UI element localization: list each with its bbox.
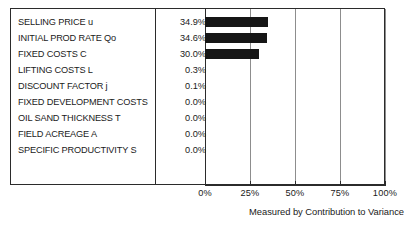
x-axis-tick-50 bbox=[295, 181, 296, 186]
row-value: 0.1% bbox=[162, 78, 206, 94]
chart-row: SPECIFIC PRODUCTIVITY S0.0% bbox=[10, 142, 385, 158]
row-value: 0.3% bbox=[162, 62, 206, 78]
row-label: OIL SAND THICKNESS T bbox=[18, 110, 158, 126]
row-label: SELLING PRICE u bbox=[18, 14, 158, 30]
row-value: 34.6% bbox=[162, 30, 206, 46]
bar bbox=[205, 49, 259, 59]
row-value: 30.0% bbox=[162, 46, 206, 62]
chart-row: FIXED DEVELOPMENT COSTS0.0% bbox=[10, 94, 385, 110]
x-axis-tick-label: 50% bbox=[270, 188, 320, 198]
chart-rows: SELLING PRICE u34.9%INITIAL PROD RATE Qo… bbox=[10, 8, 385, 185]
chart-row: FIXED COSTS C30.0% bbox=[10, 46, 385, 62]
chart-row: OIL SAND THICKNESS T0.0% bbox=[10, 110, 385, 126]
row-label: INITIAL PROD RATE Qo bbox=[18, 30, 158, 46]
row-label: FIXED COSTS C bbox=[18, 46, 158, 62]
row-label: FIXED DEVELOPMENT COSTS bbox=[18, 94, 158, 110]
row-value: 0.0% bbox=[162, 94, 206, 110]
x-axis-tick-0 bbox=[205, 181, 206, 186]
bar bbox=[205, 33, 267, 43]
x-axis-tick-label: 0% bbox=[180, 188, 230, 198]
row-value: 34.9% bbox=[162, 14, 206, 30]
row-value: 0.0% bbox=[162, 142, 206, 158]
axis-caption: Measured by Contribution to Variance bbox=[0, 206, 404, 217]
x-axis-tick-label: 25% bbox=[225, 188, 275, 198]
x-axis-tick-75 bbox=[340, 181, 341, 186]
x-axis-tick-label: 100% bbox=[360, 188, 410, 198]
x-axis-tick-100 bbox=[385, 181, 386, 186]
tornado-chart: SELLING PRICE u34.9%INITIAL PROD RATE Qo… bbox=[0, 0, 413, 228]
row-value: 0.0% bbox=[162, 126, 206, 142]
chart-row: SELLING PRICE u34.9% bbox=[10, 14, 385, 30]
x-axis-tick-label: 75% bbox=[315, 188, 365, 198]
row-label: SPECIFIC PRODUCTIVITY S bbox=[18, 142, 158, 158]
gridline-100 bbox=[385, 9, 386, 185]
row-value: 0.0% bbox=[162, 110, 206, 126]
chart-row: LIFTING COSTS L0.3% bbox=[10, 62, 385, 78]
x-axis-tick-25 bbox=[250, 181, 251, 186]
bar bbox=[205, 17, 268, 27]
row-label: LIFTING COSTS L bbox=[18, 62, 158, 78]
row-label: DISCOUNT FACTOR j bbox=[18, 78, 158, 94]
chart-row: INITIAL PROD RATE Qo34.6% bbox=[10, 30, 385, 46]
row-label: FIELD ACREAGE A bbox=[18, 126, 158, 142]
chart-row: FIELD ACREAGE A0.0% bbox=[10, 126, 385, 142]
chart-row: DISCOUNT FACTOR j0.1% bbox=[10, 78, 385, 94]
